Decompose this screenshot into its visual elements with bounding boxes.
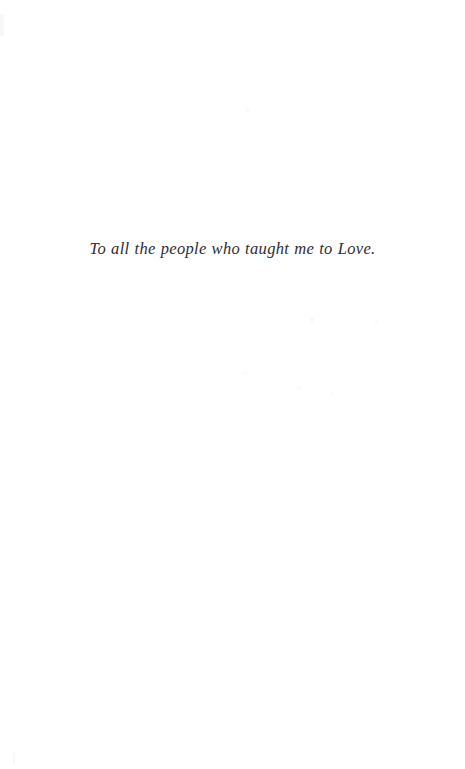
scan-artifact-speck: [331, 392, 334, 396]
scan-artifact-left-edge-top: [0, 14, 4, 36]
scan-artifact-speck: [243, 371, 247, 375]
document-page: To all the people who taught me to Love.: [0, 0, 465, 769]
scan-artifact-left-edge-bottom: [13, 752, 15, 765]
dedication-block: To all the people who taught me to Love.: [0, 238, 465, 260]
scan-artifact-speck: [310, 318, 314, 324]
scan-artifact-speck: [375, 320, 378, 325]
scan-artifact-speck: [245, 107, 250, 112]
scan-artifact-speck: [297, 386, 301, 390]
dedication-text: To all the people who taught me to Love.: [89, 238, 375, 260]
